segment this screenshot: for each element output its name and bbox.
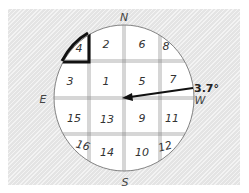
south-label: S <box>122 176 129 189</box>
east-label: E <box>40 93 47 106</box>
cell-label: 4 <box>76 42 83 55</box>
cell-label: 6 <box>139 38 146 51</box>
cell-label: 1 <box>103 75 110 88</box>
cell-label: 2 <box>103 38 110 51</box>
cell-label: 5 <box>139 75 146 88</box>
cell-label: 7 <box>170 73 177 86</box>
cell-label: 13 <box>100 113 114 126</box>
cell-label: 11 <box>165 112 179 125</box>
cell-label: 15 <box>67 112 81 125</box>
cell-label: 10 <box>135 146 149 159</box>
cell-label: 9 <box>139 112 146 125</box>
west-label: W <box>195 94 207 107</box>
angle-label: 3.7° <box>194 82 219 95</box>
north-label: N <box>120 11 128 24</box>
cell-label: 8 <box>163 40 170 53</box>
compass-diagram: 4 2 6 8 3 1 5 7 15 13 9 11 16 14 10 12 N… <box>0 0 249 193</box>
cell-label: 3 <box>67 75 74 88</box>
cell-label: 14 <box>100 146 114 159</box>
